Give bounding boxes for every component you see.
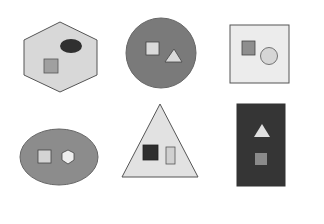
panel-hexagon bbox=[24, 22, 97, 92]
panel-rectangle bbox=[237, 104, 285, 186]
light-square bbox=[38, 150, 51, 163]
circle-container bbox=[126, 18, 196, 88]
gray-square bbox=[242, 41, 255, 55]
hexagon-container bbox=[24, 22, 97, 92]
light-square bbox=[146, 42, 159, 55]
gray-square bbox=[255, 153, 267, 165]
dark-square bbox=[143, 145, 158, 160]
panel-circle bbox=[126, 18, 196, 88]
panel-triangle bbox=[122, 104, 198, 177]
panel-ellipse bbox=[20, 129, 98, 185]
square-container bbox=[230, 25, 289, 83]
ellipse-container bbox=[20, 129, 98, 185]
light-rectangle bbox=[166, 147, 175, 164]
triangle-container bbox=[122, 104, 198, 177]
gray-square bbox=[44, 59, 58, 73]
shapes-figure bbox=[0, 0, 324, 224]
light-circle bbox=[261, 48, 278, 65]
dark-ellipse bbox=[60, 39, 82, 53]
rectangle-container bbox=[237, 104, 285, 186]
panel-square bbox=[230, 25, 289, 83]
